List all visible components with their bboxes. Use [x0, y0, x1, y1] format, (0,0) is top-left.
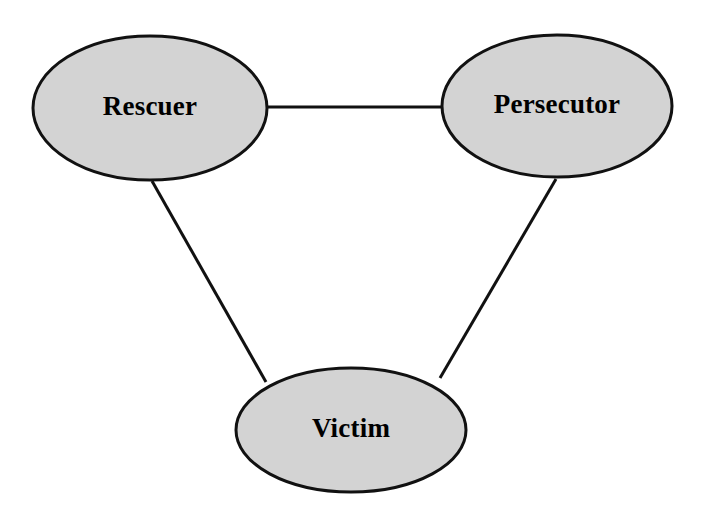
victim-label: Victim [312, 413, 390, 443]
edge-persecutor-victim [440, 179, 556, 378]
drama-triangle-diagram: Rescuer Persecutor Victim [0, 0, 703, 527]
persecutor-label: Persecutor [494, 89, 620, 119]
node-persecutor[interactable]: Persecutor [442, 35, 672, 177]
rescuer-label: Rescuer [103, 91, 197, 121]
edge-rescuer-victim [152, 181, 266, 382]
node-rescuer[interactable]: Rescuer [33, 36, 267, 180]
diagram-canvas: Rescuer Persecutor Victim [0, 0, 703, 527]
node-victim[interactable]: Victim [236, 368, 466, 492]
